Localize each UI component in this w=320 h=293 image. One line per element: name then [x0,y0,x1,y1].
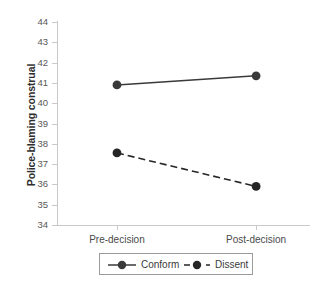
data-point-dissent-1 [252,182,261,191]
series-layer [0,0,320,293]
police-blaming-construal-line-chart: Police-blaming construal 343536373839404… [0,0,320,293]
legend: Conform Dissent [99,253,253,275]
data-point-conform-1 [252,71,261,80]
legend-item-label-dissent: Dissent [215,259,248,271]
legend-marker-dissent [193,261,201,269]
series-line-conform [117,76,256,85]
data-point-dissent-0 [113,149,122,158]
data-point-conform-0 [113,81,122,90]
legend-marker-conform [118,261,126,269]
legend-item-label-conform: Conform [141,259,179,271]
series-line-dissent [117,153,256,186]
